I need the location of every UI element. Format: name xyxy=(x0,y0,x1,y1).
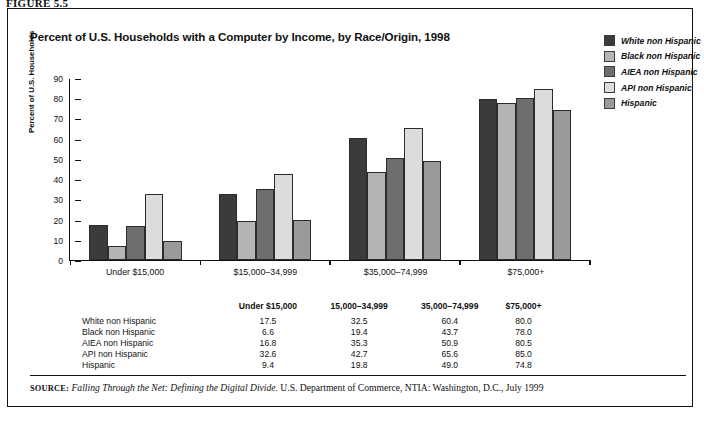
table-cell: 78.0 xyxy=(495,326,552,337)
legend-item-label: API non Hispanic xyxy=(621,83,692,93)
legend-item-label: Hispanic xyxy=(621,98,657,108)
table-row: White non Hispanic17.532.560.480.0 xyxy=(82,315,552,326)
y-axis-tick-mark xyxy=(75,261,81,262)
legend-swatch-icon xyxy=(604,98,615,109)
x-axis-tick-label: Under $15,000 xyxy=(70,267,200,277)
chart-legend: White non HispanicBlack non HispanicAIEA… xyxy=(604,33,704,111)
table-cell: 60.4 xyxy=(404,315,495,326)
chart-bar xyxy=(516,98,535,260)
figure-frame: Percent of U.S. Households with a Comput… xyxy=(7,8,693,407)
x-axis-tick-label: $15,000–34,999 xyxy=(200,267,330,277)
bar-group xyxy=(200,79,330,260)
table-cell: 65.6 xyxy=(404,349,495,360)
bar-group xyxy=(460,79,590,260)
table-cell: 80.5 xyxy=(495,337,552,348)
table-cell: 32.5 xyxy=(314,315,405,326)
table-cell: 50.9 xyxy=(404,337,495,348)
table-cell: 74.8 xyxy=(495,360,552,371)
x-axis-tick-mark xyxy=(329,260,330,265)
legend-item-label: AIEA non Hispanic xyxy=(621,67,698,77)
chart-bar xyxy=(145,194,164,259)
table-row-label: Black non Hispanic xyxy=(82,326,222,337)
table-row-label: AIEA non Hispanic xyxy=(82,337,222,348)
chart-bar xyxy=(256,189,275,260)
table-cell: 43.7 xyxy=(404,326,495,337)
table-cell: 19.8 xyxy=(314,360,405,371)
table-cell: 19.4 xyxy=(314,326,405,337)
table-header-row: Under $15,00015,000–34,99935,000–74,999$… xyxy=(82,301,552,315)
table-cell: 6.6 xyxy=(222,326,314,337)
table-column-header xyxy=(82,301,222,315)
table-column-header: Under $15,000 xyxy=(222,301,314,315)
table-cell: 32.6 xyxy=(222,349,314,360)
table-cell: 49.0 xyxy=(404,360,495,371)
chart-axes xyxy=(69,79,590,261)
legend-item: API non Hispanic xyxy=(604,80,704,96)
x-axis-tick-label: $75,000+ xyxy=(461,267,591,277)
y-axis-tick-label: 30 xyxy=(43,195,63,205)
bar-groups xyxy=(70,79,590,260)
y-axis-tick-label: 10 xyxy=(43,236,63,246)
legend-item: Black non Hispanic xyxy=(604,49,704,65)
table-row: AIEA non Hispanic16.835.350.980.5 xyxy=(82,337,552,348)
table-row-label: Hispanic xyxy=(82,360,222,371)
legend-swatch-icon xyxy=(604,35,615,46)
table-cell: 42.7 xyxy=(314,349,405,360)
legend-item: Hispanic xyxy=(604,95,704,111)
table-cell: 35.3 xyxy=(314,337,405,348)
table-cell: 9.4 xyxy=(222,360,314,371)
legend-item-label: White non Hispanic xyxy=(621,36,701,46)
chart-bar xyxy=(163,241,182,260)
y-axis-tick-label: 80 xyxy=(43,94,63,104)
legend-item: White non Hispanic xyxy=(604,33,704,49)
y-axis-tick-label: 20 xyxy=(43,216,63,226)
chart-bar xyxy=(367,172,386,260)
legend-item: AIEA non Hispanic xyxy=(604,64,704,80)
table-cell: 80.0 xyxy=(495,315,552,326)
table-row-label: API non Hispanic xyxy=(82,349,222,360)
chart-bar xyxy=(274,174,293,260)
source-rest: U.S. Department of Commerce, NTIA: Washi… xyxy=(278,382,544,393)
y-axis-tick-label: 0 xyxy=(43,256,63,266)
chart-bar xyxy=(479,99,498,260)
bar-group xyxy=(70,79,200,260)
y-axis-tick-label: 90 xyxy=(43,74,63,84)
legend-swatch-icon xyxy=(604,82,615,93)
table-row: Black non Hispanic6.619.443.778.0 xyxy=(82,326,552,337)
table-row-label: White non Hispanic xyxy=(82,315,222,326)
chart-bar xyxy=(126,226,145,260)
table-body: White non Hispanic17.532.560.480.0Black … xyxy=(82,315,552,371)
table-row: Hispanic9.419.849.074.8 xyxy=(82,360,552,371)
source-title: Falling Through the Net: Defining the Di… xyxy=(72,382,278,393)
x-axis-tick-label: $35,000–74,999 xyxy=(331,267,461,277)
data-table: Under $15,00015,000–34,99935,000–74,999$… xyxy=(82,301,552,371)
chart-bar xyxy=(89,225,108,260)
source-prefix: SOURCE: xyxy=(30,384,69,393)
chart-title: Percent of U.S. Households with a Comput… xyxy=(30,30,450,43)
y-axis-tick-label: 60 xyxy=(43,135,63,145)
chart-bar xyxy=(108,246,127,259)
y-axis-ticks: 0102030405060708090 xyxy=(42,79,68,261)
chart-bar xyxy=(553,110,572,260)
y-axis-tick-label: 70 xyxy=(43,114,63,124)
table-column-header: $75,000+ xyxy=(495,301,552,315)
chart-plot-area: Percent of U.S. Households 0102030405060… xyxy=(30,79,590,279)
chart-bar xyxy=(497,103,516,260)
chart-bar xyxy=(349,138,368,259)
source-note: SOURCE: Falling Through the Net: Definin… xyxy=(30,382,690,393)
table-row: API non Hispanic32.642.765.685.0 xyxy=(82,349,552,360)
bar-group xyxy=(330,79,460,260)
table-column-header: 15,000–34,999 xyxy=(314,301,405,315)
x-axis-tick-mark xyxy=(589,260,590,265)
chart-bar xyxy=(237,221,256,260)
x-axis-tick-mark xyxy=(459,260,460,265)
table-cell: 17.5 xyxy=(222,315,314,326)
chart-bar xyxy=(423,161,442,259)
x-axis-labels: Under $15,000$15,000–34,999$35,000–74,99… xyxy=(70,267,591,277)
chart-bar xyxy=(534,89,553,260)
legend-swatch-icon xyxy=(604,66,615,77)
chart-bar xyxy=(404,128,423,260)
y-axis-tick-label: 50 xyxy=(43,155,63,165)
chart-bar xyxy=(293,220,312,260)
horizontal-rule xyxy=(30,375,686,376)
